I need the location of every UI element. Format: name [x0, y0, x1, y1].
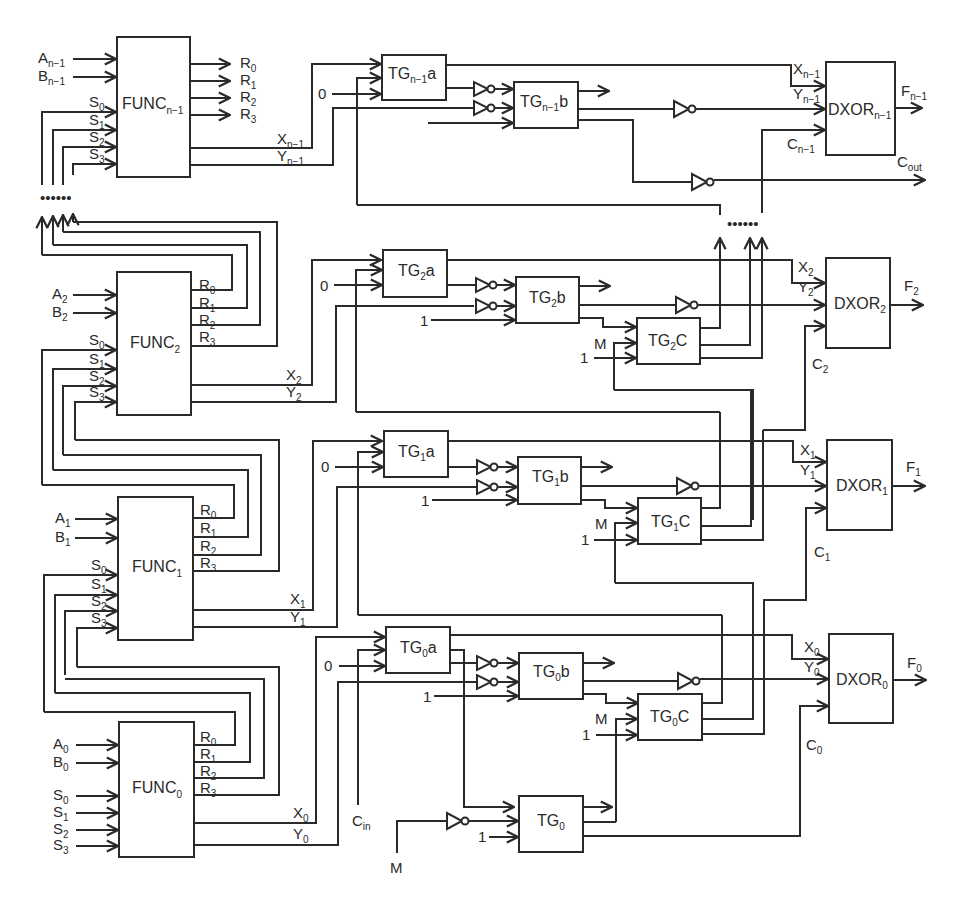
svg-text:B2: B2 [52, 303, 68, 323]
svg-text:A1: A1 [55, 509, 71, 529]
svg-text:M: M [595, 515, 608, 532]
svg-text:F1: F1 [906, 458, 921, 478]
svg-text:Y0: Y0 [293, 825, 309, 845]
svg-text:1: 1 [582, 726, 590, 743]
svg-text:A0: A0 [53, 735, 69, 755]
inverter-icon [692, 174, 707, 190]
svg-text:1: 1 [478, 828, 486, 845]
stage-0: FUNC0 A0 B0 R0 R1 R2 R3 S0 S1 S2 S3 X0 Y… [44, 600, 926, 876]
svg-text:1: 1 [420, 312, 428, 329]
svg-text:F2: F2 [904, 277, 919, 297]
svg-text:Y1: Y1 [800, 461, 816, 481]
svg-text:B1: B1 [55, 528, 71, 548]
svg-text:Cn−1: Cn−1 [787, 135, 815, 155]
svg-text:A2: A2 [52, 285, 68, 305]
inverter-icon [474, 101, 488, 115]
svg-text:0: 0 [320, 277, 328, 294]
inverter-icon [476, 278, 490, 292]
svg-text:1: 1 [581, 531, 589, 548]
stage-1: FUNC1 A1 B1 R0 R1 R2 R3 S0 S1 S2 S3 X1 Y… [42, 390, 925, 720]
inverter-icon [477, 460, 491, 474]
inverter-icon [477, 656, 491, 670]
svg-text:X0: X0 [293, 804, 309, 824]
svg-text:M: M [595, 710, 608, 727]
input-a-n-1: An−1 [38, 49, 65, 69]
svg-text:B0: B0 [53, 753, 69, 773]
carry-in-label: Cin [352, 812, 371, 832]
stage-n-1: FUNCn−1 An−1 Bn−1 S0 S1 S2 S3 R0 R1 R2 R… [38, 37, 928, 215]
svg-text:X1: X1 [290, 590, 306, 610]
const-zero: 0 [318, 85, 326, 102]
svg-text:Xn−1: Xn−1 [793, 60, 820, 80]
inverter-icon [677, 478, 692, 494]
svg-text:C1: C1 [814, 543, 831, 563]
svg-text:M: M [594, 335, 607, 352]
inverter-icon [477, 675, 491, 689]
inverter-icon [447, 813, 462, 829]
inverter-icon [674, 101, 689, 117]
input-b-n-1: Bn−1 [38, 67, 65, 87]
inverter-icon [477, 480, 491, 494]
svg-text:S0: S0 [89, 331, 105, 351]
svg-text:X1: X1 [800, 441, 816, 461]
inverter-icon [476, 299, 490, 313]
svg-text:S0: S0 [91, 556, 107, 576]
inverter-icon [678, 673, 693, 689]
svg-text:X2: X2 [798, 258, 814, 278]
svg-text:Yn−1: Yn−1 [793, 85, 820, 105]
svg-text:Y0: Y0 [804, 658, 820, 678]
svg-text:Y2: Y2 [798, 278, 814, 298]
svg-text:C0: C0 [806, 736, 823, 756]
ellipsis-left: •••••• [40, 189, 72, 206]
svg-text:1: 1 [423, 688, 431, 705]
alu-circuit-diagram: FUNCn−1 An−1 Bn−1 S0 S1 S2 S3 R0 R1 R2 R… [0, 0, 964, 902]
svg-text:1: 1 [580, 349, 588, 366]
svg-text:R0: R0 [199, 276, 216, 296]
f-n-1-label: Fn−1 [901, 82, 928, 102]
svg-text:0: 0 [321, 458, 329, 475]
inverter-icon [676, 297, 691, 313]
carry-out-label: Cout [897, 153, 922, 173]
stage-2: FUNC2 A2 B2 R0 R1 R2 R3 S0 S1 S2 S3 X2 Y… [42, 214, 923, 520]
svg-text:0: 0 [324, 657, 332, 674]
svg-text:F0: F0 [907, 654, 922, 674]
svg-text:C2: C2 [812, 355, 829, 375]
svg-text:M: M [390, 859, 403, 876]
ellipsis-right: •••••• [727, 215, 759, 232]
svg-text:R3: R3 [240, 105, 257, 125]
svg-text:S0: S0 [89, 93, 105, 113]
inverter-icon [474, 82, 488, 96]
svg-text:X0: X0 [804, 638, 820, 658]
svg-text:1: 1 [421, 492, 429, 509]
